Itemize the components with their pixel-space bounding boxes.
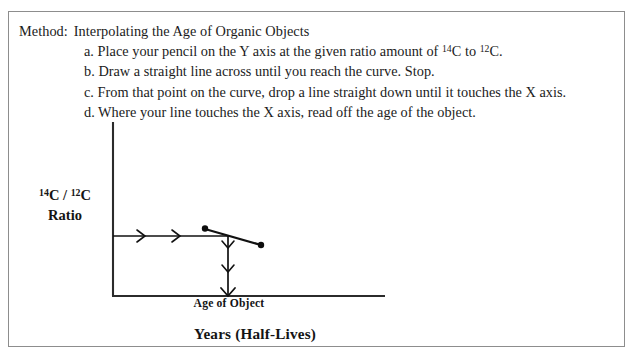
step-marker-c: c. — [84, 84, 94, 100]
step-text-a-after: . — [499, 43, 503, 59]
step-marker-d: d. — [84, 104, 95, 120]
y-isotope-14-element: C — [49, 187, 59, 203]
page-canvas: Method:Interpolating the Age of Organic … — [0, 0, 636, 356]
isotope-14-superscript: 14 — [442, 43, 452, 54]
step-text-b: Draw a straight line across until you re… — [98, 63, 434, 79]
y-axis-label-line2: Ratio — [22, 206, 108, 226]
y-axis-label: 14C / 12C Ratio — [22, 186, 108, 225]
step-text-d: Where your line touches the X axis, read… — [98, 104, 476, 120]
isotope-12-element: C — [489, 43, 499, 59]
list-item: c. From that point on the curve, drop a … — [19, 82, 615, 102]
list-item: a. Place your pencil on the Y axis at th… — [19, 41, 615, 61]
step-marker-a: a. — [84, 43, 94, 59]
method-title: Interpolating the Age of Organic Objects — [74, 23, 310, 39]
method-label: Method: — [19, 23, 68, 39]
method-heading: Method:Interpolating the Age of Organic … — [19, 21, 615, 41]
list-item: d. Where your line touches the X axis, r… — [19, 102, 615, 122]
y-isotope-14-superscript: 14 — [39, 187, 49, 198]
y-axis-label-line1: 14C / 12C — [22, 186, 108, 206]
step-marker-b: b. — [84, 63, 95, 79]
y-isotope-12-element: C — [80, 187, 90, 203]
y-isotope-12-superscript: 12 — [71, 187, 81, 198]
step-text-c: From that point on the curve, drop a lin… — [98, 84, 567, 100]
isotope-12-superscript: 12 — [480, 43, 490, 54]
list-item: b. Draw a straight line across until you… — [19, 61, 615, 81]
step-text-a-mid: to — [461, 43, 479, 59]
method-steps-list: a. Place your pencil on the Y axis at th… — [19, 41, 615, 123]
method-text-block: Method:Interpolating the Age of Organic … — [19, 21, 615, 123]
y-label-separator: / — [59, 187, 70, 203]
step-text-a-before: Place your pencil on the Y axis at the g… — [98, 43, 442, 59]
age-of-object-annotation: Age of Object — [148, 297, 310, 310]
x-axis-title: Years (Half-Lives) — [130, 325, 380, 343]
isotope-14-element: C — [452, 43, 462, 59]
